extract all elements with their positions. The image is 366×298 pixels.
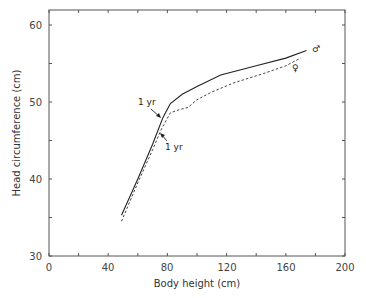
axis-ticks (49, 10, 345, 256)
x-tick-label: 160 (276, 262, 295, 273)
plot-frame (49, 10, 345, 256)
y-tick-label: 60 (29, 20, 42, 31)
y-tick-label: 40 (29, 174, 42, 185)
annotation-female-1yr: 1 yr (165, 142, 183, 152)
x-tick-label: 200 (335, 262, 354, 273)
y-axis-label: Head circumference (cm) (11, 69, 22, 196)
female-series-line (122, 58, 301, 221)
y-tick-label: 30 (29, 251, 42, 262)
x-tick-label: 80 (161, 262, 174, 273)
annotation-male-1yr: 1 yr (138, 97, 156, 107)
male-series-line (122, 50, 307, 215)
y-tick-label: 50 (29, 97, 42, 108)
x-tick-label: 120 (217, 262, 236, 273)
male-symbol-icon: ♂ (312, 44, 320, 54)
chart: 0 40 80 120 160 200 30 40 50 60 Body hei… (0, 0, 366, 298)
x-tick-label: 0 (46, 262, 52, 273)
female-symbol-icon: ♀ (292, 63, 299, 73)
x-tick-label: 40 (102, 262, 115, 273)
x-axis-label: Body height (cm) (154, 278, 241, 289)
